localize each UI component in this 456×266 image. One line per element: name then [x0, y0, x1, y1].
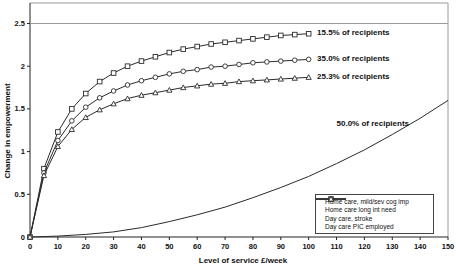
square-marker — [195, 44, 200, 49]
x-tick-label: 10 — [54, 242, 62, 251]
x-tick-label: 150 — [442, 242, 455, 251]
x-axis: 0102030405060708090100110120130140150 — [28, 237, 454, 251]
x-tick-label: 80 — [249, 242, 257, 251]
square-marker — [83, 91, 88, 96]
circle-marker — [139, 78, 144, 83]
square-marker — [153, 55, 158, 60]
triangle-marker — [83, 115, 88, 120]
series-2 — [28, 57, 311, 239]
series-line — [30, 59, 309, 237]
circle-marker — [195, 67, 200, 72]
x-tick-label: 140 — [414, 242, 427, 251]
circle-marker — [237, 62, 242, 67]
circle-marker — [125, 83, 130, 88]
x-axis-title: Level of service £/week — [199, 256, 288, 265]
square-marker — [237, 38, 242, 43]
legend: Home care, mild/sev cog impHome care lon… — [315, 194, 434, 234]
x-tick-label: 70 — [221, 242, 229, 251]
x-tick-label: 40 — [137, 242, 145, 251]
circle-marker — [111, 89, 116, 94]
x-tick-label: 20 — [82, 242, 90, 251]
square-marker — [97, 79, 102, 84]
x-tick-label: 110 — [330, 242, 342, 251]
y-tick-label: 1 — [21, 147, 25, 156]
circle-marker — [167, 72, 172, 77]
square-marker — [306, 31, 311, 36]
square-marker — [279, 33, 284, 38]
x-tick-label: 130 — [386, 242, 399, 251]
legend-label: Day care PIC employed — [325, 223, 394, 230]
annotation: 35.0% of recipients — [317, 54, 390, 63]
square-marker — [209, 42, 214, 47]
x-tick-label: 100 — [302, 242, 315, 251]
circle-marker — [83, 105, 88, 110]
square-marker — [265, 35, 270, 40]
x-tick-label: 50 — [165, 242, 173, 251]
square-marker — [70, 107, 75, 112]
annotation: 50.0% of recipients — [337, 119, 410, 128]
legend-entry-2: Day care, stroke — [325, 214, 431, 222]
square-marker — [251, 37, 256, 42]
y-axis: 00.511.522.5 — [15, 19, 30, 242]
y-tick-label: 1.5 — [15, 104, 25, 113]
circle-marker — [153, 75, 158, 80]
x-tick-label: 30 — [109, 242, 117, 251]
y-tick-label: 2 — [21, 62, 25, 71]
y-axis-title: Change in empowerment — [3, 83, 12, 178]
circle-marker — [251, 60, 256, 65]
square-marker — [139, 59, 144, 64]
square-marker — [181, 47, 186, 52]
square-marker — [292, 32, 297, 37]
annotations: 15.5% of recipients35.0% of recipients25… — [317, 28, 410, 128]
x-tick-label: 120 — [358, 242, 371, 251]
x-tick-label: 60 — [193, 242, 201, 251]
circle-marker — [181, 69, 186, 74]
legend-entry-1: Home care long int need — [325, 206, 431, 214]
circle-marker — [97, 95, 102, 100]
empowerment-chart-figure: 00.511.522.5 010203040506070809010011012… — [0, 0, 456, 266]
legend-entry-3: Day care PIC employed — [325, 223, 431, 231]
legend-label: Day care, stroke — [325, 215, 372, 222]
circle-marker — [56, 138, 61, 143]
circle-marker — [306, 57, 311, 62]
circle-marker — [209, 65, 214, 70]
square-marker — [167, 50, 172, 55]
series-line — [30, 77, 309, 237]
x-tick-label: 0 — [28, 242, 32, 251]
legend-label: Home care long int need — [325, 206, 396, 213]
square-marker — [56, 130, 61, 135]
circle-marker — [279, 59, 284, 64]
square-marker — [223, 40, 228, 45]
circle-marker — [265, 60, 270, 65]
y-tick-label: 0.5 — [15, 190, 25, 199]
x-tick-label: 90 — [277, 242, 285, 251]
square-marker — [125, 64, 130, 69]
annotation: 25.3% of recipients — [317, 72, 390, 81]
circle-marker — [223, 64, 228, 69]
square-marker — [111, 71, 116, 76]
circle-marker — [292, 58, 297, 63]
series-3 — [27, 75, 311, 239]
triangle-marker-line-icon — [316, 195, 346, 203]
annotation: 15.5% of recipients — [317, 28, 390, 37]
y-tick-label: 0 — [21, 233, 25, 242]
circle-marker — [70, 119, 75, 124]
y-tick-label: 2.5 — [15, 19, 25, 28]
